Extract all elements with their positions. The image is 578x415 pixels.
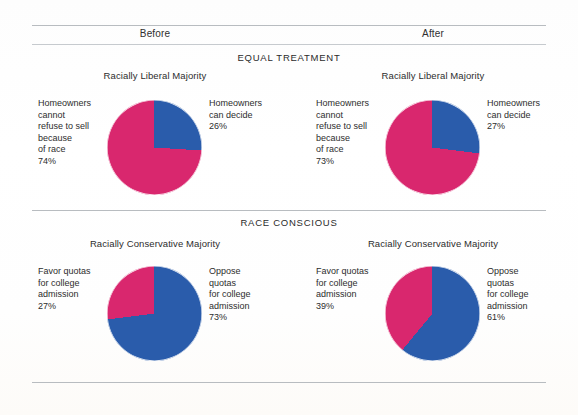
- panel-title: Racially Conservative Majority: [20, 238, 290, 249]
- rule-under-column-headers: [32, 44, 546, 45]
- slice-label-left: Homeowners cannot refuse to sell because…: [316, 98, 394, 168]
- panel-race-conscious-after: Racially Conservative Majority Favor quo…: [298, 238, 568, 368]
- pie-chart: [385, 266, 480, 361]
- panel-equal-treatment-after: Racially Liberal Majority Homeowners can…: [298, 70, 568, 200]
- slice-label-right: Homeowners can decide 27%: [487, 98, 567, 133]
- slice-label-left: Favor quotas for college admission 27%: [38, 266, 116, 312]
- pie-chart: [107, 266, 202, 361]
- panel-title: Racially Liberal Majority: [20, 70, 290, 81]
- slice-label-right: Homeowners can decide 26%: [209, 98, 289, 133]
- pie-chart: [107, 100, 202, 195]
- slice-label-left: Favor quotas for college admission 39%: [316, 266, 394, 312]
- panel-title: Racially Conservative Majority: [298, 238, 568, 249]
- rule-bottom: [32, 382, 546, 383]
- column-header-after: After: [373, 28, 493, 39]
- column-header-before: Before: [95, 28, 215, 39]
- pie-chart: [385, 100, 480, 195]
- rule-top: [32, 25, 546, 26]
- slice-label-right: Oppose quotas for college admission 73%: [209, 266, 289, 324]
- rule-between-sections: [32, 210, 546, 211]
- panel-race-conscious-before: Racially Conservative Majority Favor quo…: [20, 238, 290, 368]
- figure-panel: Before After EQUAL TREATMENT Racially Li…: [0, 0, 578, 415]
- section-title-equal-treatment: EQUAL TREATMENT: [0, 52, 578, 63]
- panel-equal-treatment-before: Racially Liberal Majority Homeowners can…: [20, 70, 290, 200]
- section-title-race-conscious: RACE CONSCIOUS: [0, 217, 578, 228]
- panel-title: Racially Liberal Majority: [298, 70, 568, 81]
- slice-label-right: Oppose quotas for college admission 61%: [487, 266, 567, 324]
- slice-label-left: Homeowners cannot refuse to sell because…: [38, 98, 116, 168]
